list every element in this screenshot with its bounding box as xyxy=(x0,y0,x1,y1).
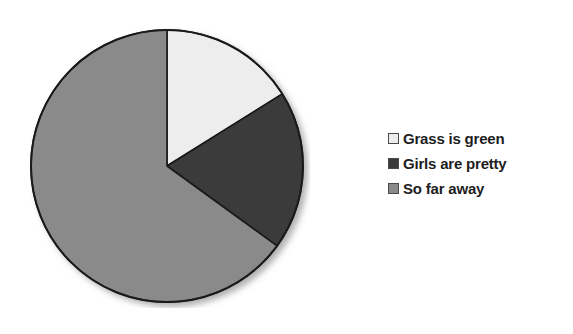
legend-item-girls-are-pretty[interactable]: Girls are pretty xyxy=(388,151,563,176)
pie-slice-group xyxy=(31,30,303,302)
legend-label-so-far-away: So far away xyxy=(403,180,484,197)
legend-item-so-far-away[interactable]: So far away xyxy=(388,176,563,201)
legend-swatch-icon-girls-are-pretty xyxy=(388,158,399,169)
pie-chart-canvas: Grass is green Girls are pretty So far a… xyxy=(0,0,573,334)
legend-label-girls-are-pretty: Girls are pretty xyxy=(403,155,507,172)
legend-label-grass-is-green: Grass is green xyxy=(403,130,504,147)
legend-item-grass-is-green[interactable]: Grass is green xyxy=(388,126,563,151)
legend-swatch-icon-grass-is-green xyxy=(388,133,399,144)
pie-chart-graphic xyxy=(30,28,310,308)
pie-svg xyxy=(30,28,310,308)
legend-swatch-icon-so-far-away xyxy=(388,183,399,194)
chart-legend: Grass is green Girls are pretty So far a… xyxy=(388,126,563,201)
